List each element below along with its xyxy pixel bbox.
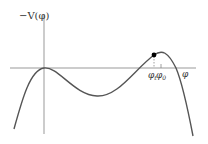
y-axis-label: −V(φ) bbox=[19, 11, 49, 21]
tunneling-point-dot bbox=[152, 53, 157, 58]
phi-0-label: φ0 bbox=[156, 71, 166, 81]
potential-plot bbox=[0, 0, 208, 144]
x-axis-label: φ bbox=[182, 70, 188, 79]
potential-curve bbox=[14, 52, 193, 136]
phi-0-subscript: 0 bbox=[162, 74, 166, 81]
